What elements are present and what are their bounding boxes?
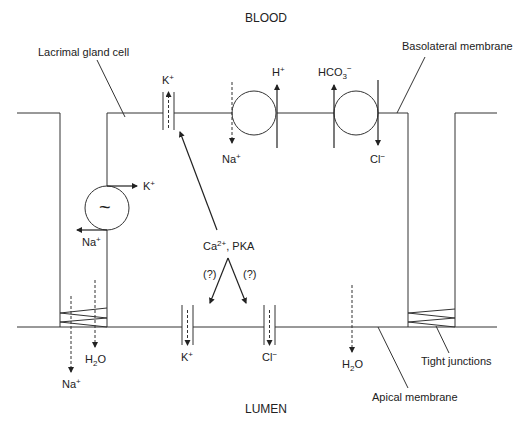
apical-k-channel (182, 305, 193, 345)
ion-cl-apical: Cl− (262, 350, 277, 363)
ion-k-basolateral: K+ (162, 73, 174, 86)
ion-h-out: H+ (272, 65, 285, 78)
regulator-to-apical-cl (228, 258, 246, 303)
ion-h2o-apical: H2O (342, 358, 363, 373)
ion-cl-in: Cl− (370, 152, 385, 165)
label-lacrimal-gland-cell: Lacrimal gland cell (38, 46, 129, 58)
ion-na-paracellular: Na+ (62, 377, 81, 390)
tight-junction-right (408, 309, 455, 327)
region-blood-label: BLOOD (245, 11, 287, 25)
ion-h2o-paracellular: H2O (85, 353, 106, 368)
apical-cl-channel (264, 305, 275, 345)
regulator-to-basolateral-k (180, 132, 217, 230)
regulator-label: Ca2+, PKA (203, 239, 255, 252)
uncertain-left: (?) (203, 268, 216, 280)
ion-hco3-out: HCO3− (318, 64, 352, 81)
leader-basolateral (397, 57, 425, 113)
label-tight-junctions: Tight junctions (421, 355, 492, 367)
label-apical-membrane: Apical membrane (372, 391, 458, 403)
ion-k-pump: K+ (143, 179, 155, 192)
regulator-to-apical-k (210, 258, 228, 303)
cl-hco3-exchanger (334, 80, 378, 148)
na-h-exchanger (232, 82, 277, 148)
leader-tight-junctions (436, 326, 449, 353)
ion-k-apical: K+ (181, 350, 193, 363)
leader-cell (97, 60, 125, 117)
ion-na-in: Na+ (222, 152, 241, 165)
tight-junction-left (60, 308, 107, 327)
uncertain-right: (?) (243, 268, 256, 280)
ion-na-pump: Na+ (82, 235, 101, 248)
pump-symbol: ~ (99, 196, 111, 218)
region-lumen-label: LUMEN (245, 402, 287, 416)
label-basolateral-membrane: Basolateral membrane (402, 40, 513, 52)
lacrimal-gland-transport-diagram: BLOOD LUMEN K+ Na+ H+ (0, 0, 521, 429)
leader-apical (378, 327, 408, 388)
basolateral-k-channel (163, 92, 174, 130)
